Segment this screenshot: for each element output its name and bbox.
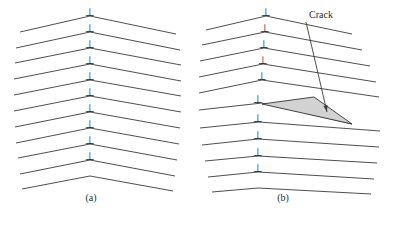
edge-dislocation-symbol: ⊥ (257, 70, 267, 82)
panel-b-dislocation-symbols: ⊥⊥⊥⊥⊥⊥⊥⊥⊥⊥ (253, 6, 271, 174)
lattice-plane-line (199, 64, 376, 82)
lattice-plane-line (202, 32, 362, 50)
edge-dislocation-symbol: ⊥ (85, 102, 95, 114)
lattice-plane-line (14, 96, 181, 112)
crack-wedge-polygon (262, 97, 352, 124)
panel-b-caption: (b) (263, 192, 303, 203)
crack-label: Crack (309, 9, 333, 20)
edge-dislocation-symbol: ⊥ (259, 38, 269, 50)
panel-a-dislocation-symbols: ⊥⊥⊥⊥⊥⊥⊥⊥⊥⊥ (85, 6, 95, 162)
lattice-plane-line (14, 80, 181, 96)
edge-dislocation-symbol: ⊥ (85, 118, 95, 130)
lattice-plane-line (16, 32, 180, 50)
edge-dislocation-symbol: ⊥ (85, 22, 95, 34)
edge-dislocation-symbol: ⊥ (85, 54, 95, 66)
panel-a-lattice-lines (14, 16, 181, 191)
lattice-plane-line (202, 139, 379, 147)
edge-dislocation-symbol: ⊥ (85, 86, 95, 98)
edge-dislocation-symbol: ⊥ (253, 162, 263, 174)
diagram-canvas: ⊥⊥⊥⊥⊥⊥⊥⊥⊥⊥ ⊥⊥⊥⊥⊥⊥⊥⊥⊥⊥ (0, 0, 393, 225)
edge-dislocation-symbol: ⊥ (85, 6, 95, 18)
edge-dislocation-symbol: ⊥ (253, 146, 263, 158)
edge-dislocation-symbol: ⊥ (85, 150, 95, 162)
lattice-plane-line (15, 112, 180, 128)
lattice-plane-line (18, 144, 177, 160)
edge-dislocation-symbol: ⊥ (260, 22, 270, 34)
lattice-plane-line (199, 80, 379, 97)
lattice-plane-line (205, 156, 377, 163)
lattice-plane-line (22, 176, 173, 191)
edge-dislocation-symbol: ⊥ (253, 93, 263, 105)
edge-dislocation-symbol: ⊥ (85, 134, 95, 146)
lattice-plane-line (20, 160, 175, 176)
panel-a-caption: (a) (71, 192, 111, 203)
lattice-plane-line (20, 16, 176, 34)
edge-dislocation-symbol: ⊥ (261, 6, 271, 18)
lattice-plane-line (14, 64, 181, 81)
edge-dislocation-symbol: ⊥ (85, 70, 95, 82)
edge-dislocation-symbol: ⊥ (258, 54, 268, 66)
edge-dislocation-symbol: ⊥ (253, 129, 263, 141)
lattice-plane-line (200, 122, 380, 131)
lattice-plane-line (200, 48, 370, 66)
figure-tilt-boundary-crack: ⊥⊥⊥⊥⊥⊥⊥⊥⊥⊥ ⊥⊥⊥⊥⊥⊥⊥⊥⊥⊥ (a) (b) Crack (0, 0, 393, 225)
edge-dislocation-symbol: ⊥ (85, 38, 95, 50)
crack-wedge (262, 97, 352, 124)
lattice-plane-line (208, 172, 374, 179)
edge-dislocation-symbol: ⊥ (253, 112, 263, 124)
lattice-plane-line (15, 48, 181, 65)
lattice-plane-line (16, 128, 179, 144)
